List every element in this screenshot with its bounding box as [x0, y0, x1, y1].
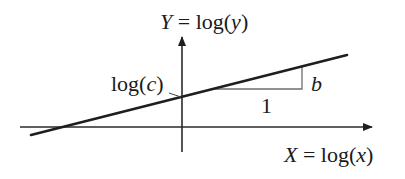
- intercept-close: ): [156, 71, 163, 96]
- diagram-canvas: Y = log(y) log(c) b 1 X = log(x): [0, 0, 405, 179]
- regression-line: [31, 55, 347, 135]
- x-axis-inner: x: [355, 142, 366, 167]
- intercept-leader-line: [169, 93, 181, 97]
- y-axis-label: Y = log(y): [160, 9, 248, 34]
- intercept-inner: c: [146, 71, 156, 96]
- x-axis-close: ): [366, 142, 373, 167]
- x-axis-eq: = log(: [297, 142, 356, 167]
- slope-run-label: 1: [261, 93, 272, 118]
- intercept-label: log(c): [111, 71, 164, 96]
- slope-rise-label: b: [311, 71, 322, 96]
- diagram-svg: Y = log(y) log(c) b 1 X = log(x): [0, 0, 405, 179]
- y-axis-close: ): [241, 9, 248, 34]
- intercept-prefix: log(: [111, 71, 146, 96]
- x-axis-label: X = log(x): [283, 142, 373, 167]
- y-axis-inner: y: [229, 9, 241, 34]
- y-axis-eq: = log(: [172, 9, 231, 34]
